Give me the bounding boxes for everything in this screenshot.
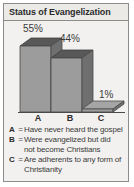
legend-text-b: Were evangelized but did not become Chri… [24, 135, 123, 155]
bar-b-front-face [51, 58, 82, 112]
legend-item-c: C = Are adherents to any form of Christi… [9, 155, 123, 175]
page-title: Status of Evangelization [9, 7, 111, 17]
legend-separator-b: = [17, 135, 24, 145]
legend-separator-a: = [17, 125, 24, 135]
legend-separator-c: = [17, 155, 24, 165]
bar-a-front-face [20, 46, 51, 112]
value-label-c: 1% [99, 89, 113, 100]
legend-item-a: A = Have never heard the gospel [9, 125, 123, 135]
chart-plot-area: 55% 44% 1% A B C [4, 21, 128, 125]
legend-text-a: Have never heard the gospel [24, 125, 123, 135]
chart-title-bar: Status of Evangelization [4, 4, 128, 21]
value-label-a: 55% [23, 23, 43, 34]
legend-key-b: B [9, 135, 17, 145]
axis-tick-label-a: A [30, 113, 46, 123]
value-label-b: 44% [60, 33, 80, 44]
bar-c-front-face [82, 109, 113, 112]
legend-text-c: Are adherents to any form of Christianit… [24, 155, 123, 175]
axis-tick-label-b: B [62, 113, 78, 123]
chart-figure: Status of Evangelization [3, 3, 129, 182]
legend-key-c: C [9, 155, 17, 165]
axis-tick-label-c: C [93, 113, 109, 123]
bar-b [51, 50, 93, 112]
legend-item-b: B = Were evangelized but did not become … [9, 135, 123, 155]
chart-legend: A = Have never heard the gospel B = Were… [4, 125, 128, 175]
legend-key-a: A [9, 125, 17, 135]
